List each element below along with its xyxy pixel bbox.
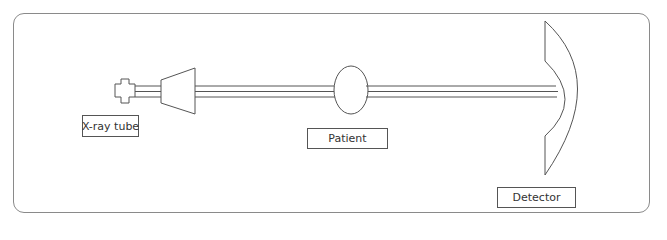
patient-icon (334, 66, 368, 114)
beam-lines-to-patient (195, 86, 336, 97)
collimator-icon (161, 68, 195, 114)
xray-source-icon (115, 79, 135, 103)
tube-connector-lines (135, 86, 161, 97)
xray-tube-label: X-ray tube (82, 115, 139, 137)
patient-label: Patient (307, 128, 388, 149)
beam-lines-to-detector (366, 86, 558, 97)
detector-label: Detector (497, 187, 576, 208)
detector-icon (545, 21, 578, 175)
